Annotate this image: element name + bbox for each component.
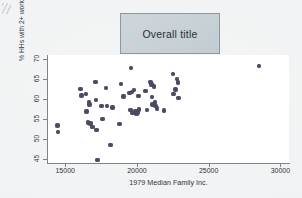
data-point (171, 92, 176, 97)
y-tick-label: 70 (33, 52, 40, 66)
title-box: Overall title (120, 13, 220, 54)
y-tick-label: 55 (33, 112, 40, 126)
data-point (55, 123, 60, 128)
y-axis-line (47, 55, 48, 164)
x-tick-label: 15000 (45, 167, 85, 174)
data-point (137, 107, 142, 112)
x-tick-label: 30000 (260, 167, 300, 174)
data-point (78, 87, 83, 92)
y-tick (43, 79, 47, 80)
y-tick-label: 45 (33, 152, 40, 166)
chart-title: Overall title (142, 28, 197, 40)
y-tick (43, 59, 47, 60)
data-point (121, 94, 126, 99)
data-point (173, 87, 178, 92)
x-axis-label: 1979 Median Family Inc. (48, 178, 289, 187)
data-point (95, 158, 100, 163)
y-tick (43, 159, 47, 160)
y-tick (43, 99, 47, 100)
x-tick-label: 20000 (117, 167, 157, 174)
y-tick-label: 50 (33, 132, 40, 146)
data-point (117, 122, 122, 127)
data-point (105, 104, 110, 109)
data-point (108, 143, 113, 148)
y-tick (43, 119, 47, 120)
data-point (143, 89, 148, 94)
y-tick (43, 139, 47, 140)
data-point (84, 109, 89, 114)
data-point (136, 94, 141, 99)
x-tick-label: 25000 (189, 167, 229, 174)
data-point (87, 102, 92, 107)
data-point (110, 105, 115, 110)
data-point (176, 80, 181, 85)
y-axis-label: % HHs with 2+ workers (18, 0, 25, 61)
y-tick-label: 60 (33, 92, 40, 106)
data-point (171, 72, 176, 77)
data-point (100, 117, 105, 122)
scatter-chart: Overall title 455055606570 1500020000250… (0, 0, 302, 198)
data-point (93, 80, 98, 85)
data-point (176, 96, 181, 101)
x-axis-line (47, 163, 290, 164)
y-tick-label: 65 (33, 72, 40, 86)
